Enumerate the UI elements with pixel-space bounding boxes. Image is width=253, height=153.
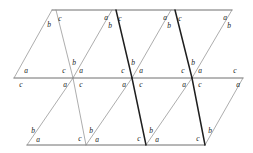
angle-label-b: b bbox=[72, 59, 76, 67]
angle-label-c: c bbox=[139, 81, 142, 89]
angle-label-a: a bbox=[95, 136, 99, 144]
angle-label-a: a bbox=[198, 67, 202, 75]
angle-label-a: a bbox=[182, 81, 186, 89]
angle-label-c: c bbox=[196, 135, 199, 143]
angle-label-a: a bbox=[63, 81, 67, 89]
angle-label-c: c bbox=[79, 81, 82, 89]
tessellation-svg bbox=[0, 0, 253, 153]
angle-label-b: b bbox=[47, 21, 51, 29]
angle-label-b: b bbox=[208, 127, 212, 135]
angle-label-c: c bbox=[78, 135, 81, 143]
triangle-tessellation-figure: cbacbacbabaccbaaccbaaccbaaccabacbacbacb bbox=[0, 0, 253, 153]
angle-label-c: c bbox=[19, 81, 22, 89]
angle-label-c: c bbox=[137, 135, 140, 143]
angle-label-a: a bbox=[236, 81, 240, 89]
angle-label-c: c bbox=[121, 67, 124, 75]
angle-label-c: c bbox=[198, 81, 201, 89]
angle-label-b: b bbox=[89, 127, 93, 135]
angle-label-a: a bbox=[24, 67, 28, 75]
angle-label-c: c bbox=[181, 67, 184, 75]
angle-label-c: c bbox=[178, 15, 181, 23]
angle-label-a: a bbox=[36, 136, 40, 144]
angle-label-a: a bbox=[122, 81, 126, 89]
angle-label-b: b bbox=[108, 22, 112, 30]
angle-label-b: b bbox=[191, 59, 195, 67]
angle-label-b: b bbox=[131, 59, 135, 67]
angle-label-c: c bbox=[118, 15, 121, 23]
horizontal-lines-group bbox=[14, 10, 243, 145]
angle-label-c: c bbox=[58, 15, 61, 23]
angle-label-b: b bbox=[31, 127, 35, 135]
angle-label-b: b bbox=[167, 22, 171, 30]
angle-label-c: c bbox=[62, 67, 65, 75]
angle-label-a: a bbox=[79, 67, 83, 75]
angle-label-a: a bbox=[139, 67, 143, 75]
angle-label-c: c bbox=[233, 67, 236, 75]
angle-label-b: b bbox=[227, 22, 231, 30]
angle-label-b: b bbox=[149, 127, 153, 135]
angle-label-a: a bbox=[155, 136, 159, 144]
